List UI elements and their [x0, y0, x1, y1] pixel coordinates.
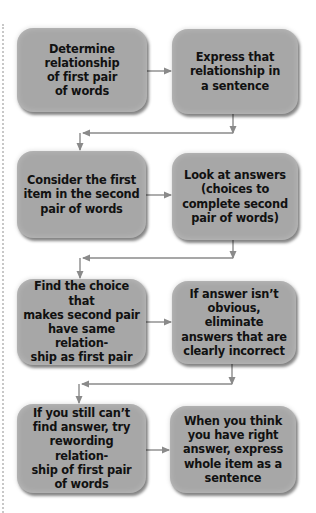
step-6-label: If answer isn’t obvious, eliminate answe… [178, 287, 290, 358]
step-1-label: Determine relationship of first pair of … [45, 42, 120, 99]
dotted-margin-rule [2, 24, 4, 513]
step-6-box: If answer isn’t obvious, eliminate answe… [172, 281, 296, 364]
step-8-box: When you think you have right answer, ex… [170, 406, 296, 493]
step-2-label: Express that relationship in a sentence [190, 50, 280, 93]
step-7-label: If you still can’t find answer, try rewo… [23, 406, 140, 491]
step-2-box: Express that relationship in a sentence [172, 29, 298, 114]
step-5-label: Find the choice that makes second pair h… [23, 279, 140, 364]
step-3-box: Consider the first item in the second pa… [17, 151, 146, 238]
step-8-label: When you think you have right answer, ex… [183, 414, 283, 485]
step-5-box: Find the choice that makes second pair h… [17, 279, 146, 365]
step-3-label: Consider the first item in the second pa… [24, 173, 140, 216]
step-7-box: If you still can’t find answer, try rewo… [17, 404, 146, 493]
step-1-box: Determine relationship of first pair of … [17, 28, 147, 112]
step-4-label: Look at answers (choices to complete sec… [182, 168, 288, 225]
step-4-box: Look at answers (choices to complete sec… [172, 153, 298, 240]
